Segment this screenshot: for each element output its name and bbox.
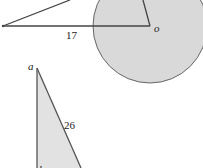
geometry-figure: o 17 a 26 b	[0, 0, 203, 168]
tangent-segment	[3, 0, 70, 26]
bottom-figure: a 26 b	[28, 60, 82, 168]
label-hypotenuse-26: 26	[64, 119, 76, 131]
label-apex-a: a	[28, 60, 34, 72]
label-length-17: 17	[66, 29, 78, 41]
label-center-o: o	[154, 22, 160, 34]
point-p	[2, 25, 4, 27]
label-bottom-partial: b	[39, 163, 45, 168]
shaded-circle	[93, 0, 203, 83]
